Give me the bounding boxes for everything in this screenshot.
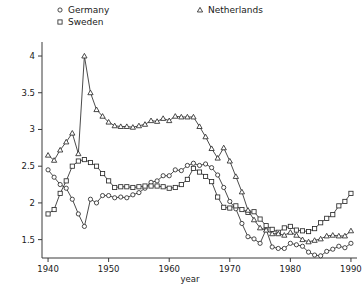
marker-circle: [100, 193, 104, 197]
marker-triangle: [94, 107, 99, 112]
legend-entry-netherlands: Netherlands: [197, 5, 263, 15]
marker-circle: [58, 8, 62, 12]
marker-triangle: [142, 122, 147, 127]
y-tick-label: 2: [30, 198, 35, 208]
marker-triangle: [300, 237, 305, 242]
marker-square: [282, 226, 286, 230]
marker-circle: [131, 193, 135, 197]
marker-square: [306, 229, 310, 233]
marker-circle: [312, 253, 316, 257]
marker-triangle: [245, 208, 250, 213]
marker-square: [191, 166, 195, 170]
marker-square: [58, 191, 62, 195]
marker-triangle: [221, 145, 226, 150]
marker-circle: [137, 191, 141, 195]
series-line-netherlands: [48, 56, 351, 242]
x-tick-label: 1970: [219, 264, 241, 274]
marker-square: [197, 170, 201, 174]
marker-circle: [52, 175, 56, 179]
marker-square: [319, 221, 323, 225]
marker-circle: [210, 166, 214, 170]
marker-circle: [167, 174, 171, 178]
marker-circle: [337, 244, 341, 248]
marker-square: [88, 160, 92, 164]
marker-circle: [185, 163, 189, 167]
marker-square: [312, 227, 316, 231]
marker-circle: [203, 162, 207, 166]
marker-triangle: [288, 230, 293, 235]
y-tick-label: 3.5: [21, 88, 35, 98]
marker-circle: [113, 196, 117, 200]
marker-circle: [94, 201, 98, 205]
marker-square: [161, 185, 165, 189]
marker-circle: [252, 237, 256, 241]
marker-circle: [191, 161, 195, 165]
marker-circle: [300, 244, 304, 248]
legend-entry-germany: Germany: [58, 5, 110, 15]
marker-square: [294, 228, 298, 232]
marker-square: [76, 159, 80, 163]
marker-circle: [294, 243, 298, 247]
marker-triangle: [294, 233, 299, 238]
marker-circle: [197, 163, 201, 167]
marker-circle: [125, 196, 129, 200]
x-tick-label: 1950: [98, 264, 120, 274]
marker-square: [325, 216, 329, 220]
marker-square: [155, 184, 159, 188]
x-axis-title: year: [181, 274, 200, 284]
marker-circle: [288, 241, 292, 245]
marker-triangle: [348, 228, 353, 233]
marker-circle: [161, 174, 165, 178]
x-tick-label: 1990: [340, 264, 362, 274]
marker-square: [143, 184, 147, 188]
marker-circle: [228, 199, 232, 203]
marker-triangle: [197, 124, 202, 129]
marker-circle: [282, 246, 286, 250]
chart-axes: 1.522.533.54194019501960197019801990: [21, 42, 361, 274]
marker-triangle: [318, 236, 323, 241]
marker-square: [107, 179, 111, 183]
marker-triangle: [148, 118, 153, 123]
marker-square: [149, 184, 153, 188]
series-netherlands: [45, 53, 353, 243]
marker-square: [94, 164, 98, 168]
chart-legend: GermanySwedenNetherlands: [58, 5, 263, 27]
marker-triangle: [82, 53, 87, 58]
marker-triangle: [215, 155, 220, 160]
marker-triangle: [209, 146, 214, 151]
marker-square: [70, 164, 74, 168]
marker-triangle: [112, 123, 117, 128]
marker-circle: [70, 197, 74, 201]
legend-label-netherlands: Netherlands: [208, 5, 263, 15]
marker-triangle: [251, 217, 256, 222]
marker-square: [58, 20, 62, 24]
x-tick-label: 1980: [280, 264, 302, 274]
marker-circle: [119, 195, 123, 199]
marker-circle: [216, 173, 220, 177]
marker-square: [258, 217, 262, 221]
marker-circle: [76, 212, 80, 216]
marker-square: [137, 185, 141, 189]
marker-circle: [319, 254, 323, 258]
marker-square: [349, 191, 353, 195]
marker-square: [216, 195, 220, 199]
y-tick-label: 1.5: [21, 235, 35, 245]
marker-square: [252, 210, 256, 214]
marker-circle: [331, 247, 335, 251]
marker-triangle: [330, 233, 335, 238]
marker-square: [100, 171, 104, 175]
marker-circle: [306, 250, 310, 254]
marker-square: [210, 180, 214, 184]
x-tick-label: 1940: [37, 264, 59, 274]
marker-triangle: [161, 116, 166, 121]
fertility-rate-line-chart: GermanySwedenNetherlands 1.522.533.54194…: [0, 0, 364, 288]
marker-triangle: [203, 134, 208, 139]
marker-circle: [173, 168, 177, 172]
marker-square: [173, 185, 177, 189]
marker-square: [203, 174, 207, 178]
marker-triangle: [173, 114, 178, 119]
marker-square: [167, 186, 171, 190]
marker-circle: [155, 179, 159, 183]
marker-circle: [82, 224, 86, 228]
marker-square: [300, 229, 304, 233]
